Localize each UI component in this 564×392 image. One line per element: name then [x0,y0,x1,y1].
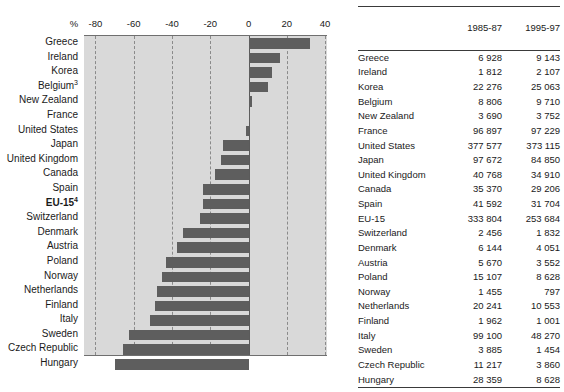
country-label-austria: Austria [0,239,80,254]
bar-norway [162,272,248,283]
x-axis-tick-20: 20 [282,18,293,30]
column-header-country [358,21,444,36]
x-axis-tick--20: -20 [203,18,217,30]
bar-eu-15 [203,199,249,210]
x-axis-tick--40: -40 [165,18,179,30]
table-row: Netherlands20 24110 553 [358,299,560,314]
country-label-spain: Spain [0,181,80,196]
bar-denmark [183,228,248,239]
cell-value-1995-97: 10 553 [502,299,560,314]
bar-belgium [249,82,269,93]
cell-country: Denmark [358,241,444,256]
country-label-ireland: Ireland [0,50,80,65]
bar-row [84,51,327,66]
footnote-marker: 4 [74,195,78,202]
country-label-hungary: Hungary [0,356,80,371]
cell-value-1985-87: 1 455 [444,285,502,300]
cell-value-1985-87: 11 217 [444,358,502,373]
column-header-1985-87: 1985-87 [444,21,502,36]
cell-value-1995-97: 3 860 [502,358,560,373]
table-row: Finland1 9621 001 [358,314,560,329]
cell-value-1985-87: 2 456 [444,226,502,241]
cell-country: Sweden [358,343,444,358]
table-foot [358,388,560,392]
table-row: EU-15333 804253 684 [358,212,560,227]
bar-hungary [115,359,248,370]
cell-value-1985-87: 3 885 [444,343,502,358]
bar-row [84,167,327,182]
cell-value-1985-87: 1 962 [444,314,502,329]
cell-value-1995-97: 2 107 [502,65,560,80]
bar-row [84,197,327,212]
bar-greece [249,38,310,49]
cell-country: Japan [358,153,444,168]
table-row: Canada35 37029 206 [358,182,560,197]
table-row: United States377 577373 115 [358,139,560,154]
table-row: United Kingdom40 76834 910 [358,168,560,183]
bar-finland [155,301,249,312]
cell-country: Spain [358,197,444,212]
x-axis-tick--60: -60 [127,18,141,30]
bar-chart-panel: % -80-60-40-2002040 GreeceIrelandKoreaBe… [0,0,348,367]
bar-row [84,182,327,197]
bar-row [84,255,327,270]
bar-canada [215,169,248,180]
cell-country: Austria [358,256,444,271]
country-label-italy: Italy [0,312,80,327]
bar-france [249,111,250,122]
table-bottom-rule [358,388,560,392]
footnote-marker: 3 [74,78,78,85]
country-label-column: GreeceIrelandKoreaBelgium3New ZealandFra… [0,35,80,356]
cell-value-1985-87: 5 670 [444,256,502,271]
table-head: 1985-87 1995-97 [358,7,560,51]
cell-country: Canada [358,182,444,197]
country-label-sweden: Sweden [0,327,80,342]
cell-value-1995-97: 34 910 [502,168,560,183]
cell-value-1995-97: 9 143 [502,50,560,65]
bar-row [84,270,327,285]
country-label-france: France [0,108,80,123]
cell-value-1985-87: 41 592 [444,197,502,212]
bar-row [84,80,327,95]
cell-value-1985-87: 28 359 [444,373,502,388]
cell-value-1985-87: 1 812 [444,65,502,80]
table-header-rule [358,36,560,51]
bar-row [84,138,327,153]
bar-row [84,36,327,51]
country-label-united-states: United States [0,123,80,138]
table-row: Norway1 455797 [358,285,560,300]
cell-value-1995-97: 1 832 [502,226,560,241]
cell-country: Netherlands [358,299,444,314]
country-label-korea: Korea [0,64,80,79]
table-row: Hungary28 3598 628 [358,373,560,388]
cell-value-1995-97: 84 850 [502,153,560,168]
cell-country: Finland [358,314,444,329]
cell-value-1985-87: 6 928 [444,50,502,65]
cell-country: Italy [358,329,444,344]
country-label-czech-republic: Czech Republic [0,341,80,356]
cell-country: Korea [358,80,444,95]
bar-row [84,211,327,226]
cell-value-1995-97: 97 229 [502,124,560,139]
bar-row [84,109,327,124]
bar-poland [166,257,248,268]
cell-value-1995-97: 4 051 [502,241,560,256]
cell-value-1985-87: 15 107 [444,270,502,285]
bar-row [84,313,327,328]
cell-value-1995-97: 253 684 [502,212,560,227]
bar-united-kingdom [221,155,249,166]
bar-switzerland [200,213,249,224]
cell-value-1985-87: 20 241 [444,299,502,314]
country-label-united-kingdom: United Kingdom [0,152,80,167]
bar-sweden [129,330,249,341]
data-table-panel: 1985-87 1995-97 Greece6 9289 143Ireland1… [358,6,560,361]
country-label-poland: Poland [0,254,80,269]
cell-value-1995-97: 31 704 [502,197,560,212]
table-row: Korea22 27625 063 [358,80,560,95]
country-label-new-zealand: New Zealand [0,93,80,108]
cell-country: New Zealand [358,109,444,124]
table-top-rule [358,7,560,22]
x-axis-tick-labels: % -80-60-40-2002040 [0,18,348,32]
cell-value-1995-97: 29 206 [502,182,560,197]
cell-value-1985-87: 35 370 [444,182,502,197]
